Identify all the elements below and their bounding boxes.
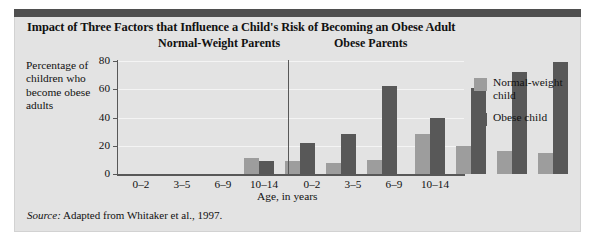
- figure-container: Impact of Three Factors that Influence a…: [0, 0, 595, 245]
- bar: [456, 146, 471, 174]
- bar: [326, 163, 341, 174]
- x-tick-label: 6–9: [202, 178, 244, 190]
- y-axis-line: [117, 60, 118, 175]
- y-tick-label: 20: [88, 139, 110, 151]
- source-citation: Adapted from Whitaker et al., 1997.: [61, 209, 222, 221]
- panel-heading-obese-parents: Obese Parents: [334, 36, 407, 51]
- legend-label-normal-weight-child: Normal-weight child: [493, 76, 585, 102]
- bar: [430, 118, 445, 175]
- panel-divider-line: [288, 60, 289, 175]
- bar: [538, 153, 553, 174]
- bar: [497, 151, 512, 174]
- x-tick-label: 6–9: [373, 178, 415, 190]
- x-tick-label: 10–14: [414, 178, 456, 190]
- y-tick-mark: [113, 61, 117, 62]
- plot-area: [118, 61, 464, 174]
- source-note: Source: Adapted from Whitaker et al., 19…: [27, 209, 222, 221]
- y-tick-mark: [113, 118, 117, 119]
- y-tick-label: 60: [88, 82, 110, 94]
- bar: [382, 86, 397, 174]
- y-tick-mark: [113, 89, 117, 90]
- accent-top-bar: [14, 9, 581, 17]
- x-tick-label: 10–14: [243, 178, 285, 190]
- y-tick-label: 80: [88, 54, 110, 66]
- legend-swatch-icon-obese-child: [474, 113, 487, 126]
- bar: [259, 161, 274, 174]
- gridline: [118, 118, 464, 119]
- x-tick-label: 0–2: [120, 178, 162, 190]
- gridline: [118, 61, 464, 62]
- gridline: [118, 89, 464, 90]
- y-tick-label: 0: [88, 167, 110, 179]
- source-label: Source:: [27, 209, 61, 221]
- page-title: Impact of Three Factors that Influence a…: [27, 20, 455, 35]
- x-tick-label: 3–5: [332, 178, 374, 190]
- bar: [300, 143, 315, 174]
- x-tick-label: 3–5: [161, 178, 203, 190]
- bar: [244, 158, 259, 174]
- legend-label-obese-child: Obese child: [493, 111, 585, 124]
- bar: [415, 134, 430, 174]
- y-tick-mark: [113, 174, 117, 175]
- gridline: [118, 146, 464, 147]
- legend-item-obese-child: Obese child: [474, 111, 585, 124]
- bar: [367, 160, 382, 174]
- x-axis-title: Age, in years: [257, 190, 317, 202]
- y-tick-mark: [113, 146, 117, 147]
- legend-item-normal-weight-child: Normal-weight child: [474, 76, 585, 102]
- legend-swatch-icon-normal-weight-child: [474, 78, 487, 91]
- bar: [341, 134, 356, 174]
- chart-legend: Normal-weight child Obese child: [474, 76, 585, 132]
- x-axis-line: [117, 174, 465, 176]
- panel-heading-normal-weight-parents: Normal-Weight Parents: [158, 36, 280, 51]
- x-tick-label: 0–2: [291, 178, 333, 190]
- y-tick-label: 40: [88, 111, 110, 123]
